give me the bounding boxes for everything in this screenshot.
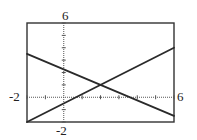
x-min-label: -2 (9, 90, 20, 103)
graph-plot (0, 0, 197, 140)
y-max-label: 6 (62, 9, 69, 22)
y-min-label: -2 (56, 124, 67, 137)
x-max-label: 6 (177, 90, 184, 103)
